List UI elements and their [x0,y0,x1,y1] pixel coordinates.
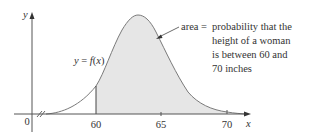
tick-label-65: 65 [156,119,167,130]
tick-label-60: 60 [91,119,102,130]
y-axis-arrow-icon [30,12,35,19]
annotation-lead: area = [181,21,207,32]
tick-label-70: 70 [222,119,233,130]
annotation-pointer [159,27,179,37]
annotation-line-4: 70 inches [212,63,252,74]
curve-label: y = f(x) [73,55,105,67]
shaded-area-60-70 [96,15,227,114]
annotation-line-1: probability that the [212,21,292,32]
normal-distribution-figure: 60 65 70 0 x y y = f(x) area = probabili… [0,0,313,138]
y-axis-label: y [22,9,28,20]
annotation-line-3: is between 60 and [212,49,288,60]
x-axis-arrow-icon [244,112,251,117]
x-axis-label: x [245,118,251,129]
annotation-line-2: height of a woman [212,35,291,46]
origin-label: 0 [24,116,29,127]
